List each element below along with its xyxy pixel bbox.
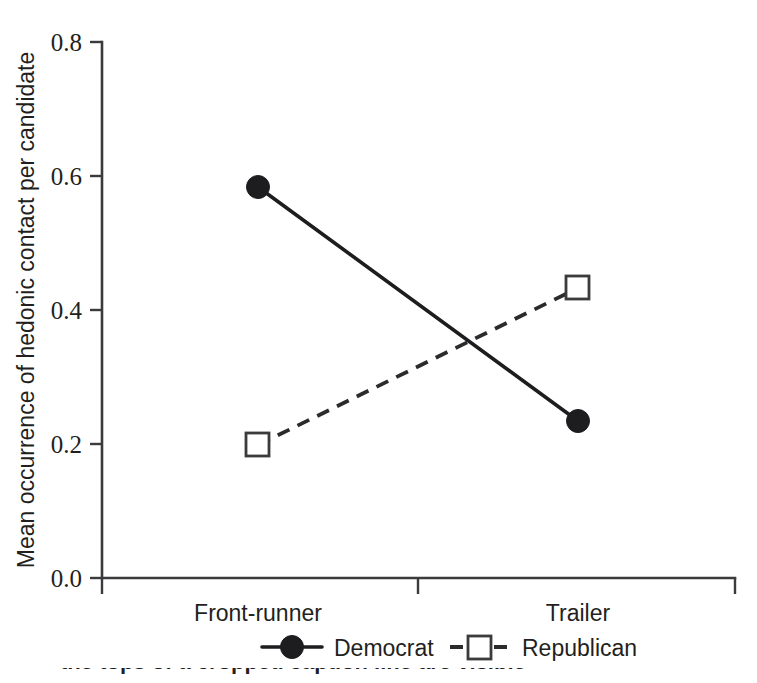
y-tick-label-2: 0.4 (51, 297, 83, 324)
series-line-republican (258, 288, 578, 445)
figure-container: 0.8 0.6 0.4 0.2 0.0 Mean occurrence of h… (0, 0, 757, 683)
legend-marker-open-square-icon (468, 636, 491, 659)
legend: Democrat Republican (262, 635, 637, 661)
data-point-democrat-trailer (567, 410, 590, 433)
legend-label-republican: Republican (522, 635, 637, 661)
legend-entry-democrat[interactable]: Democrat (262, 635, 434, 661)
data-point-democrat-front-runner (247, 176, 270, 199)
y-tick-label-0: 0.8 (51, 29, 82, 56)
legend-label-democrat: Democrat (334, 635, 434, 661)
series-line-democrat (258, 187, 578, 421)
legend-entry-republican[interactable]: Republican (450, 635, 637, 661)
data-point-republican-trailer (566, 276, 589, 299)
y-tick-label-4: 0.0 (51, 565, 82, 592)
cropped-caption-strip: the tops of a cropped caption line are v… (0, 668, 757, 683)
legend-marker-filled-circle-icon (281, 636, 304, 659)
line-chart: 0.8 0.6 0.4 0.2 0.0 Mean occurrence of h… (0, 0, 757, 683)
y-axis-title: Mean occurrence of hedonic contact per c… (13, 52, 39, 569)
x-category-label-front-runner: Front-runner (194, 600, 322, 626)
data-point-republican-front-runner (246, 433, 269, 456)
y-tick-label-1: 0.6 (51, 163, 82, 190)
cropped-caption-text: the tops of a cropped caption line are v… (60, 668, 526, 675)
x-category-label-trailer: Trailer (546, 600, 611, 626)
y-tick-label-3: 0.2 (51, 431, 82, 458)
